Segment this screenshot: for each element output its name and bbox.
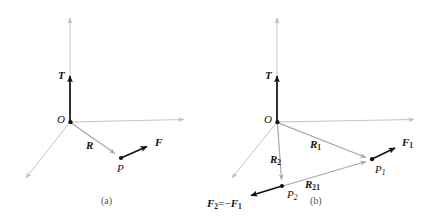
vector-R21 <box>283 162 366 187</box>
equation-rhs-base: F <box>231 197 238 209</box>
panel-a-horizontal-axis <box>70 120 184 123</box>
panel-a-axes <box>26 18 184 178</box>
label-point-P2-sub: 2 <box>294 193 298 202</box>
label-point-P2: P2 <box>287 189 298 201</box>
equation-rhs-sub: 1 <box>238 202 242 211</box>
panel-a-caption: (a) <box>101 196 112 206</box>
label-vector-R1: R1 <box>310 139 321 151</box>
point-P-dot <box>119 156 123 160</box>
label-point-P1: P1 <box>375 164 386 176</box>
panel-b-axes <box>232 18 414 178</box>
panel-b-vectors <box>251 76 395 196</box>
panel-b-origin-dot <box>275 120 279 124</box>
label-point-P: P <box>117 163 124 174</box>
label-point-P2-base: P <box>287 188 294 200</box>
label-vector-R1-sub: 1 <box>317 143 321 152</box>
label-vector-F1: F1 <box>402 137 413 149</box>
equation-F2-equals-minus-F1: F2=−F1 <box>207 198 242 210</box>
label-vector-R2-sub: 2 <box>277 158 281 167</box>
panel-a-origin-dot <box>68 120 72 124</box>
label-vector-R21: R21 <box>305 179 320 191</box>
label-vector-F-a: F <box>155 137 162 148</box>
label-point-P1-base: P <box>375 163 382 175</box>
panel-a-diagonal-axis <box>26 122 70 178</box>
vector-R1 <box>278 123 366 158</box>
vector-F2 <box>251 186 282 196</box>
point-P2-dot <box>280 184 284 188</box>
panel-a-vectors <box>68 76 147 160</box>
label-vector-T-a: T <box>58 70 65 81</box>
panel-b-diagonal-axis <box>232 122 277 178</box>
diagram-svg <box>0 0 436 224</box>
label-vector-T-b: T <box>265 70 272 81</box>
label-origin-a: O <box>57 114 65 125</box>
label-point-P1-sub: 1 <box>382 168 386 177</box>
point-P1-dot <box>370 157 374 161</box>
panel-b-caption: (b) <box>310 196 322 206</box>
label-vector-R2: R2 <box>270 154 281 166</box>
label-origin-b: O <box>264 114 272 125</box>
vector-R2 <box>277 123 281 180</box>
label-vector-R-a: R <box>86 140 93 151</box>
vector-F-a <box>121 147 147 159</box>
panel-b-horizontal-axis <box>277 120 414 123</box>
label-vector-F1-sub: 1 <box>409 141 413 150</box>
label-vector-R21-sub: 21 <box>312 183 320 192</box>
vector-F1 <box>372 148 395 159</box>
figure-container: T O R F P (a) T O R1 R2 R21 F1 P1 P2 F2=… <box>0 0 436 224</box>
